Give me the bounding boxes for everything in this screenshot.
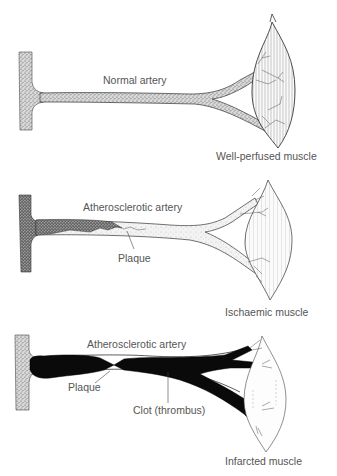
panel-atherosclerotic: Atherosclerotic artery Plaque Ischaemic … xyxy=(19,180,309,318)
muscle-infarcted xyxy=(244,336,286,452)
panel-thrombosed: Atherosclerotic artery Plaque Clot (thro… xyxy=(15,335,302,467)
label-atherosclerotic-artery-2: Atherosclerotic artery xyxy=(83,201,183,213)
artery-diagram: Normal artery Well-perfused muscle Ather… xyxy=(0,0,337,476)
muscle-well-perfused xyxy=(252,22,295,148)
aorta-atherosclerotic xyxy=(19,195,38,272)
aorta-normal xyxy=(19,52,44,130)
label-infarcted-muscle: Infarcted muscle xyxy=(225,455,302,467)
label-plaque-2: Plaque xyxy=(118,252,151,264)
label-well-perfused-muscle: Well-perfused muscle xyxy=(216,150,317,162)
muscle-ischaemic xyxy=(245,180,292,300)
label-normal-artery: Normal artery xyxy=(103,74,167,86)
label-ischaemic-muscle: Ischaemic muscle xyxy=(225,306,309,318)
label-plaque-3: Plaque xyxy=(68,381,101,393)
label-clot-thrombus: Clot (thrombus) xyxy=(133,404,205,416)
label-atherosclerotic-artery-3: Atherosclerotic artery xyxy=(87,338,187,350)
panel-normal: Normal artery Well-perfused muscle xyxy=(19,14,317,162)
